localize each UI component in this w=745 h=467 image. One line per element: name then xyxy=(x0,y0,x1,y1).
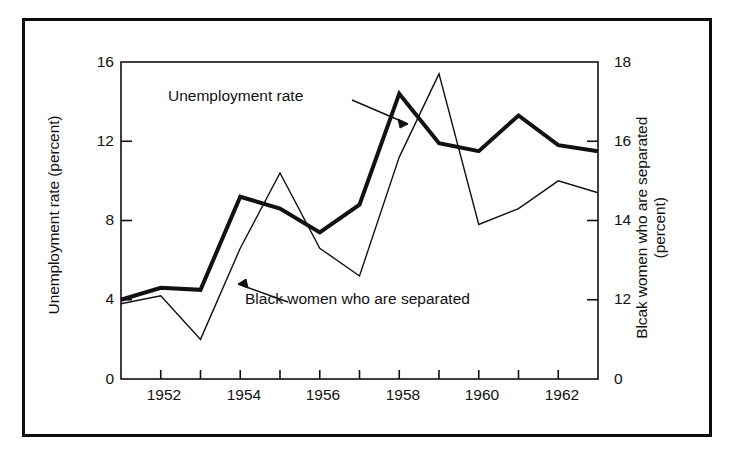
y-axis-left-title: Unemployment rate (percent) xyxy=(45,100,63,330)
y-axis-right-title-line2: (percent) xyxy=(651,197,668,258)
y-left-tick-4: 4 xyxy=(84,290,114,308)
x-tick-1958: 1958 xyxy=(375,386,431,404)
y-left-tick-12: 12 xyxy=(84,132,114,150)
x-tick-1954: 1954 xyxy=(216,386,272,404)
y-left-tick-16: 16 xyxy=(84,53,114,71)
x-tick-1956: 1956 xyxy=(295,386,351,404)
axis-tick-marks xyxy=(121,141,598,379)
x-tick-1962: 1962 xyxy=(534,386,590,404)
y-left-tick-8: 8 xyxy=(84,211,114,229)
y-right-tick-12: 12 xyxy=(614,290,644,308)
y-right-tick-14: 14 xyxy=(614,211,644,229)
x-tick-1960: 1960 xyxy=(454,386,510,404)
y-right-tick-16: 16 xyxy=(614,132,644,150)
unemployment-rate-label: Unemployment rate xyxy=(168,87,303,105)
y-left-tick-0: 0 xyxy=(84,370,114,388)
unemployment-rate-line xyxy=(121,94,598,300)
y-right-tick-18: 18 xyxy=(614,53,644,71)
x-tick-1952: 1952 xyxy=(136,386,192,404)
black-women-separated-label: Black women who are separated xyxy=(245,290,470,308)
y-right-tick-0: 0 xyxy=(614,370,644,388)
annotation-leader-arrows xyxy=(238,100,408,302)
black-women-separated-arrowhead xyxy=(238,279,248,288)
unemployment-rate-arrowhead xyxy=(398,119,408,128)
figure-root: Unemployment rate (percent) Blcak women … xyxy=(0,0,745,467)
